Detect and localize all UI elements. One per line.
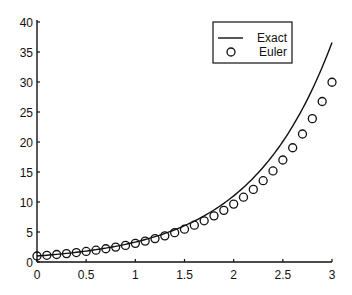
legend: Exact Euler (213, 22, 292, 63)
x-tick-label: 2 (230, 268, 237, 282)
euler-data-point (269, 167, 277, 175)
euler-data-point (318, 98, 326, 106)
exact-series-line (37, 42, 332, 256)
euler-data-point (308, 115, 316, 123)
euler-data-point (230, 200, 238, 208)
euler-data-point (210, 212, 218, 220)
y-tick-label: 20 (20, 136, 34, 150)
y-tick-label: 10 (20, 196, 34, 210)
euler-data-point (190, 221, 198, 229)
euler-data-point (328, 78, 336, 86)
x-tick-label: 0.5 (78, 268, 95, 282)
legend-label-exact: Exact (257, 31, 288, 45)
legend-label-euler: Euler (259, 45, 287, 59)
y-axis: 0510152025303540 (20, 16, 40, 270)
euler-data-point (200, 217, 208, 225)
euler-data-point (220, 206, 228, 214)
euler-data-point (299, 130, 307, 138)
x-tick-label: 1.5 (176, 268, 193, 282)
euler-data-point (249, 185, 257, 193)
euler-data-point (141, 237, 149, 245)
plot-area (33, 42, 336, 260)
y-tick-label: 30 (20, 76, 34, 90)
euler-data-point (289, 144, 297, 152)
euler-series-markers (33, 78, 336, 260)
x-tick-label: 1 (132, 268, 139, 282)
x-tick-label: 2.5 (274, 268, 291, 282)
euler-data-point (151, 235, 159, 243)
y-tick-label: 15 (20, 166, 34, 180)
x-tick-label: 0 (34, 268, 41, 282)
x-tick-label: 3 (329, 268, 336, 282)
y-tick-label: 0 (26, 256, 33, 270)
euler-data-point (259, 177, 267, 185)
euler-data-point (240, 193, 248, 201)
y-tick-label: 35 (20, 46, 34, 60)
chart-container: 0510152025303540 00.511.522.53 Exact Eul… (0, 0, 352, 295)
x-axis: 00.511.522.53 (34, 259, 336, 282)
y-tick-label: 5 (26, 226, 33, 240)
euler-data-point (279, 156, 287, 164)
y-tick-label: 25 (20, 106, 34, 120)
y-tick-label: 40 (20, 16, 34, 30)
